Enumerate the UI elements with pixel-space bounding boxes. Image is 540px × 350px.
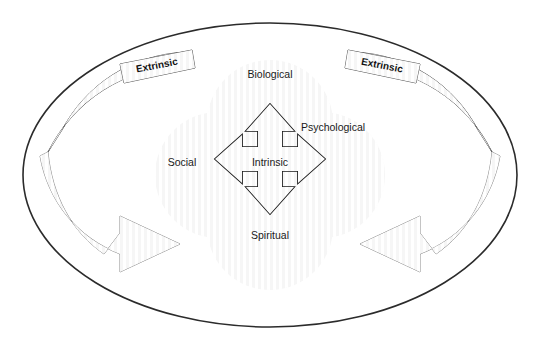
label-intrinsic: Intrinsic bbox=[252, 156, 288, 168]
label-psychological: Psychological bbox=[301, 121, 365, 133]
label-social: Social bbox=[168, 156, 197, 168]
diagram-root: Biological Psychological Spiritual Socia… bbox=[0, 0, 540, 350]
label-biological: Biological bbox=[248, 68, 293, 80]
label-spiritual: Spiritual bbox=[251, 229, 289, 241]
bps-model-diagram: Biological Psychological Spiritual Socia… bbox=[0, 0, 540, 350]
